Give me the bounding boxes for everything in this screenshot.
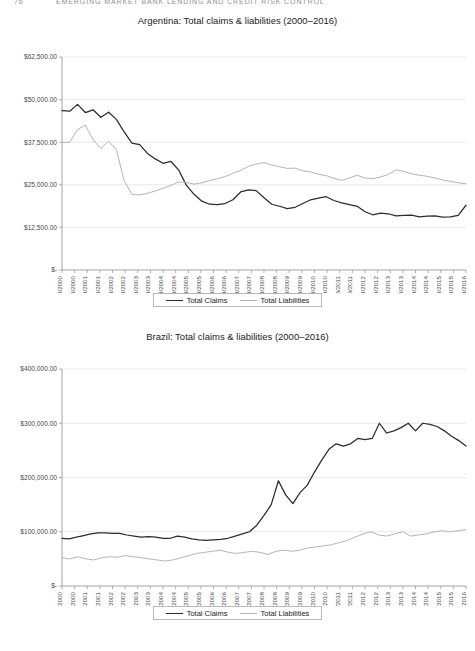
legend-swatch-liabilities-icon: [240, 300, 257, 301]
svg-text:30/09/2008: 30/09/2008: [271, 591, 278, 606]
svg-text:31/03/2003: 31/03/2003: [132, 591, 139, 606]
svg-text:31/03/2012: 31/03/2012: [359, 275, 366, 293]
svg-text:30/09/2012: 30/09/2012: [372, 591, 379, 606]
svg-text:$200,000.00: $200,000.00: [20, 474, 57, 481]
svg-text:30/09/2002: 30/09/2002: [119, 275, 126, 293]
svg-text:31/03/2000: 31/03/2000: [56, 591, 63, 606]
chart-svg-argentina: $-$12,500.00$25,000.00$37,500.00$50,000.…: [0, 28, 475, 293]
legend-argentina: Total Claims Total Liabilities: [153, 293, 323, 307]
svg-text:31/03/2013: 31/03/2013: [384, 275, 391, 293]
svg-text:30/09/2012: 30/09/2012: [372, 275, 379, 293]
legend-entry-claims: Total Claims: [160, 608, 234, 618]
svg-text:$-: $-: [51, 582, 57, 589]
legend-label-liabilities: Total Liabilities: [261, 296, 310, 305]
svg-text:31/03/2011: 31/03/2011: [334, 275, 341, 293]
running-title: EMERGING MARKET BANK LENDING AND CREDIT …: [56, 0, 325, 5]
svg-text:31/03/2015: 31/03/2015: [435, 591, 442, 606]
legend-label-claims: Total Claims: [187, 296, 228, 305]
svg-text:$12,500.00: $12,500.00: [24, 224, 57, 231]
svg-text:31/03/2008: 31/03/2008: [258, 591, 265, 606]
legend-entry-claims: Total Claims: [160, 295, 234, 305]
svg-text:$25,000.00: $25,000.00: [24, 181, 57, 188]
svg-text:30/09/2010: 30/09/2010: [321, 591, 328, 606]
svg-text:$62,500.00: $62,500.00: [24, 53, 57, 60]
svg-text:30/09/2004: 30/09/2004: [170, 591, 177, 606]
svg-text:31/03/2000: 31/03/2000: [56, 275, 63, 293]
svg-text:30/09/2001: 30/09/2001: [94, 275, 101, 293]
svg-text:31/03/2010: 31/03/2010: [309, 275, 316, 293]
svg-text:31/03/2002: 31/03/2002: [107, 275, 114, 293]
chart-svg-brazil: $-$100,000.00$200,000.00$300,000.00$400,…: [0, 344, 475, 606]
svg-text:$100,000.00: $100,000.00: [20, 528, 57, 535]
svg-text:31/03/2005: 31/03/2005: [182, 275, 189, 293]
svg-text:31/03/2010: 31/03/2010: [309, 591, 316, 606]
svg-text:31/03/2003: 31/03/2003: [132, 275, 139, 293]
legend-label-claims: Total Claims: [187, 609, 228, 618]
svg-text:31/03/2011: 31/03/2011: [334, 591, 341, 606]
svg-text:30/09/2008: 30/09/2008: [271, 275, 278, 293]
svg-text:$400,000.00: $400,000.00: [20, 365, 57, 372]
figure-argentina: Argentina: Total claims & liabilities (2…: [0, 14, 475, 339]
legend-brazil: Total Claims Total Liabilities: [153, 606, 323, 620]
svg-text:30/09/2006: 30/09/2006: [220, 275, 227, 293]
svg-text:30/09/2010: 30/09/2010: [321, 275, 328, 293]
plot-brazil: $-$100,000.00$200,000.00$300,000.00$400,…: [0, 344, 475, 606]
svg-text:30/09/2015: 30/09/2015: [447, 275, 454, 293]
chart-title-argentina: Argentina: Total claims & liabilities (2…: [0, 14, 475, 28]
svg-text:30/09/2013: 30/09/2013: [397, 275, 404, 293]
svg-text:30/09/2014: 30/09/2014: [422, 275, 429, 293]
legend-entry-liabilities: Total Liabilities: [234, 608, 316, 618]
svg-text:31/03/2009: 31/03/2009: [283, 275, 290, 293]
svg-text:31/03/2005: 31/03/2005: [182, 591, 189, 606]
svg-text:30/09/2005: 30/09/2005: [195, 591, 202, 606]
svg-text:30/09/2003: 30/09/2003: [144, 591, 151, 606]
svg-text:$37,500.00: $37,500.00: [24, 139, 57, 146]
svg-text:31/03/2013: 31/03/2013: [384, 591, 391, 606]
plot-argentina: $-$12,500.00$25,000.00$37,500.00$50,000.…: [0, 28, 475, 293]
svg-text:31/03/2015: 31/03/2015: [435, 275, 442, 293]
svg-text:31/03/2007: 31/03/2007: [233, 591, 240, 606]
svg-text:$300,000.00: $300,000.00: [20, 420, 57, 427]
svg-text:30/09/2015: 30/09/2015: [447, 591, 454, 606]
legend-label-liabilities: Total Liabilities: [261, 609, 310, 618]
svg-text:31/03/2002: 31/03/2002: [107, 591, 114, 606]
svg-text:31/03/2001: 31/03/2001: [81, 591, 88, 606]
svg-text:30/09/2007: 30/09/2007: [245, 275, 252, 293]
svg-text:30/09/2011: 30/09/2011: [346, 591, 353, 606]
svg-text:30/09/2003: 30/09/2003: [144, 275, 151, 293]
svg-text:31/03/2006: 31/03/2006: [208, 591, 215, 606]
svg-text:31/03/2008: 31/03/2008: [258, 275, 265, 293]
svg-text:$50,000.00: $50,000.00: [24, 96, 57, 103]
legend-swatch-claims-icon: [166, 613, 183, 614]
svg-text:30/09/2007: 30/09/2007: [245, 591, 252, 606]
figure-brazil: Brazil: Total claims & liabilities (2000…: [0, 330, 475, 651]
svg-text:$-: $-: [51, 266, 57, 273]
svg-text:30/09/2002: 30/09/2002: [119, 591, 126, 606]
svg-text:31/03/2016: 31/03/2016: [460, 275, 467, 293]
svg-text:30/09/2001: 30/09/2001: [94, 591, 101, 606]
svg-text:31/03/2009: 31/03/2009: [283, 591, 290, 606]
svg-text:31/03/2014: 31/03/2014: [410, 591, 417, 606]
svg-text:30/09/2009: 30/09/2009: [296, 275, 303, 293]
page-folio: 76: [14, 0, 24, 5]
svg-text:31/03/2014: 31/03/2014: [410, 275, 417, 293]
svg-text:31/03/2012: 31/03/2012: [359, 591, 366, 606]
legend-swatch-claims-icon: [166, 300, 183, 301]
chart-title-brazil: Brazil: Total claims & liabilities (2000…: [0, 330, 475, 344]
svg-text:30/09/2000: 30/09/2000: [69, 591, 76, 606]
svg-text:30/09/2014: 30/09/2014: [422, 591, 429, 606]
svg-text:30/09/2004: 30/09/2004: [170, 275, 177, 293]
svg-text:31/03/2001: 31/03/2001: [81, 275, 88, 293]
legend-entry-liabilities: Total Liabilities: [234, 295, 316, 305]
legend-swatch-liabilities-icon: [240, 613, 257, 614]
svg-text:30/09/2005: 30/09/2005: [195, 275, 202, 293]
svg-text:30/09/2011: 30/09/2011: [346, 275, 353, 293]
svg-text:31/03/2004: 31/03/2004: [157, 275, 164, 293]
svg-text:30/09/2000: 30/09/2000: [69, 275, 76, 293]
svg-text:30/09/2006: 30/09/2006: [220, 591, 227, 606]
svg-text:30/09/2009: 30/09/2009: [296, 591, 303, 606]
svg-text:31/03/2016: 31/03/2016: [460, 591, 467, 606]
svg-text:31/03/2006: 31/03/2006: [208, 275, 215, 293]
svg-text:31/03/2007: 31/03/2007: [233, 275, 240, 293]
svg-text:31/03/2004: 31/03/2004: [157, 591, 164, 606]
